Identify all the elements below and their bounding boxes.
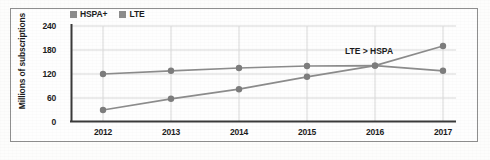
- x-tick-2014: 2014: [230, 127, 248, 137]
- x-tick-2017: 2017: [434, 127, 452, 137]
- crossover-annotation: LTE > HSPA: [345, 46, 393, 56]
- x-tick-2013: 2013: [162, 127, 180, 137]
- x-axis-tick-labels: 2012 2013 2014 2015 2016 2017: [0, 0, 490, 160]
- x-tick-2015: 2015: [298, 127, 316, 137]
- x-tick-2016: 2016: [366, 127, 384, 137]
- x-tick-2012: 2012: [94, 127, 112, 137]
- chart-figure: HSPA+ LTE Millions of subscriptions 0 60…: [0, 0, 490, 160]
